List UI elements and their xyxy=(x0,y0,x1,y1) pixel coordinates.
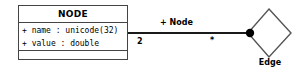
class-box-node[interactable]: NODE + name : unicode(32) + value : doub… xyxy=(18,5,128,60)
diamond-label-edge: Edge xyxy=(243,59,297,67)
class-attributes-compartment: + name : unicode(32) + value : double xyxy=(19,23,127,51)
multiplicity-target: * xyxy=(210,37,214,45)
multiplicity-source: 2 xyxy=(137,38,143,46)
class-attribute-row: + value : double xyxy=(22,37,125,50)
class-name: NODE xyxy=(58,10,88,19)
class-header: NODE xyxy=(19,6,127,23)
class-attribute-row: + name : unicode(32) xyxy=(22,24,125,37)
diamond-shape xyxy=(248,9,291,57)
class-operations-compartment xyxy=(19,51,127,59)
association-end-dot xyxy=(246,29,254,37)
association-role-label: + Node xyxy=(160,19,193,27)
uml-class-diagram: NODE + name : unicode(32) + value : doub… xyxy=(0,0,299,73)
